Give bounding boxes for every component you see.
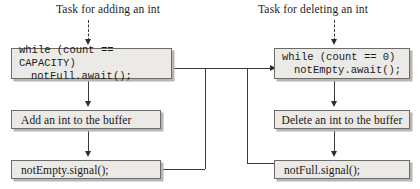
left-wait-box: while (count == CAPACITY) notFull.await(… xyxy=(11,48,172,79)
diagram-canvas: Task for adding an int Task for deleting… xyxy=(0,0,420,189)
arrowhead-down-left-add xyxy=(85,101,91,107)
arrowhead-down-delete-task xyxy=(331,39,337,45)
connector-notempty-vertical xyxy=(205,68,206,169)
dashed-connector-add-task xyxy=(88,20,89,41)
left-signal-box: notEmpty.signal(); xyxy=(11,160,161,179)
right-signal-box-label: notFull.signal(); xyxy=(284,164,409,176)
right-wait-box-line1: while (count == 0) xyxy=(282,51,409,64)
right-action-box-label: Delete an int to the buffer xyxy=(275,114,409,126)
right-wait-box: while (count == 0) notEmpty.await(); xyxy=(274,48,410,79)
right-action-box: Delete an int to the buffer xyxy=(274,110,410,129)
arrowhead-down-right-signal xyxy=(331,151,337,157)
caption-add-task: Task for adding an int xyxy=(56,3,160,15)
caption-delete-task: Task for deleting an int xyxy=(258,3,368,15)
right-wait-box-line2: notEmpty.await(); xyxy=(282,64,409,77)
left-action-box: Add an int to the buffer xyxy=(11,110,161,129)
left-wait-box-line2: notFull.await(); xyxy=(19,70,171,83)
arrowhead-down-right-delete xyxy=(331,101,337,107)
connector-notfull-vertical xyxy=(247,68,248,163)
dashed-connector-delete-task xyxy=(334,20,335,41)
connector-notempty-horizontal-top xyxy=(205,68,272,69)
right-signal-box: notFull.signal(); xyxy=(274,160,410,179)
left-wait-box-line1: while (count == CAPACITY) xyxy=(19,44,171,70)
left-signal-box-label: notEmpty.signal(); xyxy=(21,164,160,176)
arrowhead-down-left-signal xyxy=(85,151,91,157)
left-action-box-label: Add an int to the buffer xyxy=(21,114,160,126)
